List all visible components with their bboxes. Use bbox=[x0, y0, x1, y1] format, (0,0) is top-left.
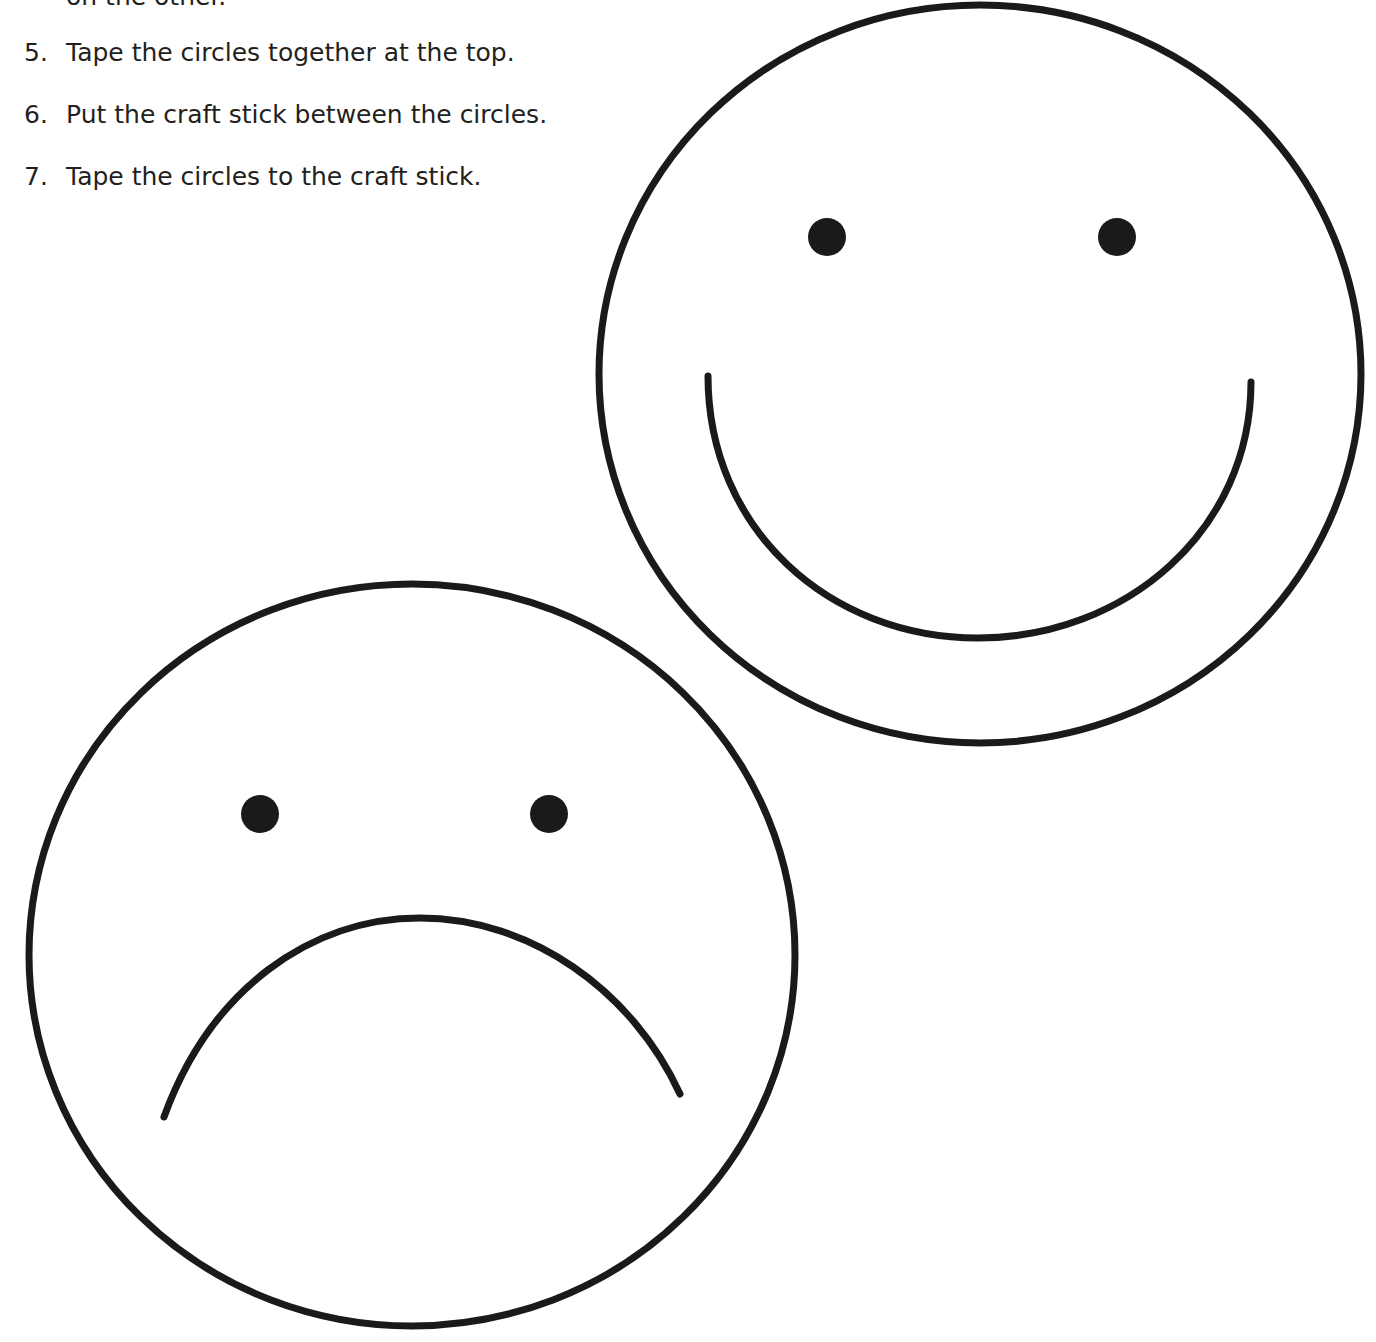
sad-face-outline bbox=[29, 584, 795, 1326]
happy-face-left-eye bbox=[808, 218, 846, 256]
sad-face-right-eye bbox=[530, 795, 568, 833]
sad-face bbox=[29, 584, 795, 1326]
happy-face bbox=[599, 5, 1361, 743]
happy-face-smile bbox=[708, 376, 1251, 638]
sad-face-left-eye bbox=[241, 795, 279, 833]
happy-face-outline bbox=[599, 5, 1361, 743]
happy-face-right-eye bbox=[1098, 218, 1136, 256]
faces-illustration bbox=[0, 0, 1376, 1342]
sad-face-frown bbox=[164, 918, 680, 1117]
